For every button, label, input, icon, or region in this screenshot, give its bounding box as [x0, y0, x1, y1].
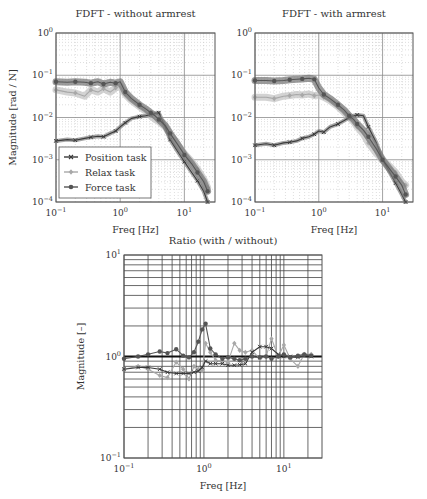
figure: FDFT - without armrest10−110010110−410−3… [0, 0, 427, 499]
chart-title: Ratio (with / without) [169, 235, 278, 246]
x-axis-label: Freq [Hz] [112, 224, 159, 235]
y-tick-label: 10−3 [231, 153, 252, 165]
y-tick-label: 100 [236, 26, 252, 38]
y-tick-label: 10−2 [231, 111, 252, 123]
grid [255, 33, 413, 202]
x-tick-label: 101 [276, 462, 292, 474]
x-tick-label: 10−1 [113, 462, 134, 474]
y-tick-label: 10−4 [231, 195, 252, 207]
y-tick-label: 10−2 [32, 111, 53, 123]
x-tick-label: 100 [112, 206, 128, 218]
legend-label: Relax task [85, 167, 135, 178]
y-tick-label: 10−1 [32, 68, 53, 80]
x-tick-label: 10−1 [45, 206, 66, 218]
y-axis-label: Magnitude [rad / N] [7, 69, 18, 166]
y-tick-label: 101 [105, 248, 121, 260]
x-tick-label: 101 [375, 206, 391, 218]
series-relax [253, 92, 408, 187]
y-tick-label: 100 [37, 26, 53, 38]
chart-title: FDFT - without armrest [75, 8, 195, 19]
legend-label: Position task [85, 152, 147, 163]
series-relax [122, 336, 314, 382]
y-tick-label: 100 [105, 350, 121, 362]
x-axis-label: Freq [Hz] [311, 224, 358, 235]
x-tick-label: 10−1 [244, 206, 265, 218]
chart-without-armrest: FDFT - without armrest10−110010110−410−3… [7, 8, 215, 235]
y-tick-label: 10−3 [32, 153, 53, 165]
y-tick-label: 10−4 [32, 195, 53, 207]
x-tick-label: 100 [311, 206, 327, 218]
y-tick-label: 10−1 [231, 68, 252, 80]
x-tick-label: 101 [177, 206, 193, 218]
x-tick-label: 100 [196, 462, 212, 474]
x-axis-label: Freq [Hz] [200, 480, 247, 491]
legend-label: Force task [85, 182, 136, 193]
y-axis-label: Magnitude [–] [75, 323, 86, 390]
chart-ratio: Ratio (with / without)10−110010110−11001… [75, 235, 322, 491]
chart-with-armrest: FDFT - with armrest10−110010110−410−310−… [231, 8, 413, 235]
legend: Position taskRelax taskForce task [59, 147, 151, 198]
y-tick-label: 10−1 [100, 451, 121, 463]
chart-title: FDFT - with armrest [282, 8, 386, 19]
